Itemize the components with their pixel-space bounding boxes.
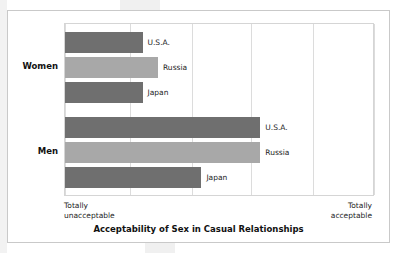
bar-value-label: Japan: [148, 82, 169, 103]
bar-value-label: U.S.A.: [148, 32, 170, 53]
bar-value-label: Japan: [206, 167, 227, 188]
bar-value-label: Russia: [265, 142, 289, 163]
axis-high-label: Totally acceptable: [331, 201, 372, 221]
chart-title: Acceptability of Sex in Casual Relations…: [8, 224, 389, 234]
group-label-men: Men: [8, 146, 58, 156]
bar-men-usa: [65, 117, 260, 138]
bar-value-label: Russia: [163, 57, 187, 78]
gridline: [374, 24, 375, 195]
bar-women-usa: [65, 32, 143, 53]
gridline: [313, 24, 314, 195]
page-edge-shadow-top: [120, 0, 160, 10]
bar-men-japan: [65, 167, 201, 188]
axis-low-label: Totally unacceptable: [64, 201, 115, 221]
gridline: [251, 24, 252, 195]
page-edge-shadow-left: [0, 0, 7, 253]
group-label-women: Women: [8, 61, 58, 71]
bar-men-russia: [65, 142, 260, 163]
bar-value-label: U.S.A.: [265, 117, 287, 138]
bar-women-russia: [65, 57, 158, 78]
bar-women-japan: [65, 82, 143, 103]
figure-frame: U.S.A.RussiaJapanU.S.A.RussiaJapan Women…: [7, 10, 390, 243]
chart-plot-area: U.S.A.RussiaJapanU.S.A.RussiaJapan: [64, 23, 374, 196]
page-edge-shadow-bottom: [145, 243, 175, 253]
